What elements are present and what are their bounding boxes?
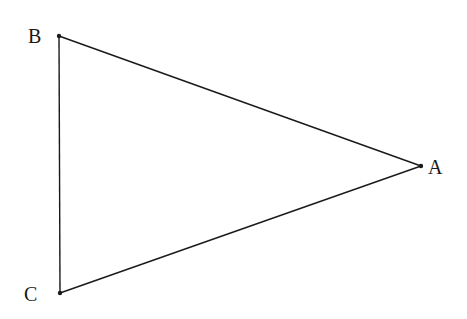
vertex-label-b: B <box>28 25 41 47</box>
triangle-edges <box>59 36 421 293</box>
vertex-point-a <box>419 164 423 168</box>
triangle-diagram: BAC <box>0 0 467 319</box>
vertex-label-a: A <box>428 156 443 178</box>
vertex-point-c <box>58 291 62 295</box>
edge-ba <box>59 36 421 166</box>
vertex-label-c: C <box>24 283 37 305</box>
edge-ac <box>60 166 421 293</box>
triangle-vertices <box>57 34 423 295</box>
vertex-labels: BAC <box>24 25 443 305</box>
edge-cb <box>59 36 60 293</box>
vertex-point-b <box>57 34 61 38</box>
